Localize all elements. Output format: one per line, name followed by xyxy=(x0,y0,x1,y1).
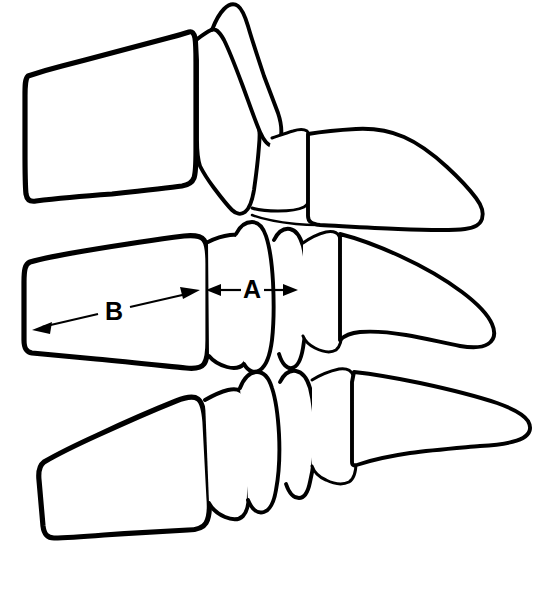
middle-lamina xyxy=(303,232,342,352)
dimension-B-label: B xyxy=(105,297,123,325)
lower-lamina xyxy=(312,369,356,484)
dimension-A-label: A xyxy=(243,275,261,303)
middle-inferior-articular-process xyxy=(274,229,307,368)
vertebrae-illustration: B A xyxy=(0,0,538,605)
vertebral-measurement-figure: B A xyxy=(0,0,538,605)
